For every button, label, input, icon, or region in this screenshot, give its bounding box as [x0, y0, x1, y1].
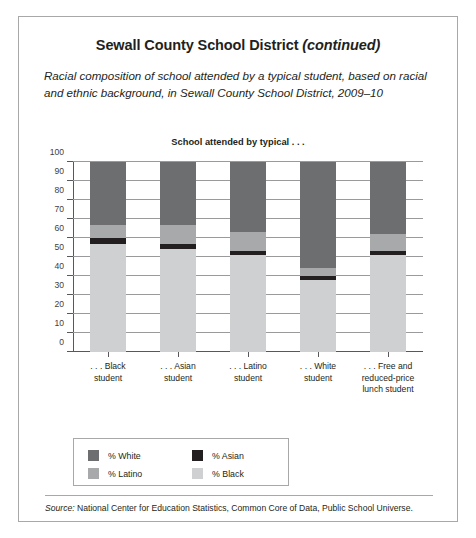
figure-card: Sewall County School District (continued… — [18, 16, 458, 522]
legend-item[interactable]: % Asian — [192, 450, 244, 461]
bar-segment-asian[interactable] — [90, 238, 126, 244]
legend-swatch-icon — [192, 468, 203, 479]
legend-swatch-icon — [192, 450, 203, 461]
x-axis-label-line: student — [160, 373, 195, 385]
stacked-bar[interactable] — [300, 162, 336, 352]
x-axis-label: . . . Whitestudent — [300, 361, 336, 384]
page-title: Sewall County School District (continued… — [19, 37, 457, 53]
source-divider — [45, 495, 433, 496]
bar-segment-latino[interactable] — [300, 268, 336, 276]
x-axis-label-line: student — [229, 373, 267, 385]
legend-label: % Asian — [212, 451, 244, 461]
bar-segment-black[interactable] — [230, 255, 266, 352]
bar-group — [90, 162, 126, 352]
y-axis-label: 10 — [54, 318, 64, 328]
bar-series-container — [73, 162, 423, 352]
bar-segment-white[interactable] — [230, 162, 266, 232]
x-axis-tick — [248, 352, 249, 357]
legend-item[interactable]: % Black — [192, 468, 244, 479]
chart-legend: % White% Asian% Latino% Black — [73, 438, 289, 486]
source-text: National Center for Education Statistics… — [75, 503, 413, 513]
stacked-bar-chart: 0102030405060708090100 . . . Blackstuden… — [35, 157, 445, 372]
x-axis-tick — [318, 352, 319, 357]
bar-segment-latino[interactable] — [160, 225, 196, 244]
legend-swatch-icon — [88, 450, 99, 461]
x-axis-label: . . . Blackstudent — [90, 361, 125, 384]
y-axis-label: 40 — [54, 261, 64, 271]
legend-item[interactable]: % White — [88, 450, 141, 461]
y-axis-label: 50 — [54, 242, 64, 252]
y-axis-label: 60 — [54, 223, 64, 233]
bar-segment-black[interactable] — [90, 244, 126, 352]
plot-heading: School attended by typical . . . — [19, 137, 457, 147]
bar-segment-white[interactable] — [370, 162, 406, 234]
x-axis-label-line: student — [300, 373, 336, 385]
x-axis-label-line: . . . Black — [90, 361, 125, 373]
bar-group — [370, 162, 406, 352]
x-axis-label-line: . . . Asian — [160, 361, 195, 373]
bar-segment-black[interactable] — [160, 249, 196, 352]
source-label: Source: — [45, 503, 75, 513]
title-main: Sewall County School District — [96, 37, 302, 53]
y-axis-label: 80 — [54, 185, 64, 195]
x-axis-label: . . . Latinostudent — [229, 361, 267, 384]
x-axis-label: . . . Free andreduced-pricelunch student — [362, 361, 415, 396]
legend-label: % Black — [212, 469, 244, 479]
page-root: Sewall County School District (continued… — [0, 0, 476, 538]
y-axis-label: 90 — [54, 166, 64, 176]
x-axis-tick — [388, 352, 389, 357]
x-axis-label-line: . . . Latino — [229, 361, 267, 373]
bar-segment-white[interactable] — [90, 162, 126, 225]
x-axis-label-line: . . . White — [300, 361, 336, 373]
x-axis-tick — [178, 352, 179, 357]
stacked-bar[interactable] — [90, 162, 126, 352]
bar-segment-white[interactable] — [300, 162, 336, 268]
y-axis-label: 30 — [54, 280, 64, 290]
y-axis-label: 100 — [50, 147, 64, 157]
source-note: Source: National Center for Education St… — [45, 503, 437, 513]
legend-item[interactable]: % Latino — [88, 468, 142, 479]
bar-segment-latino[interactable] — [90, 225, 126, 238]
bar-group — [230, 162, 266, 352]
legend-swatch-icon — [88, 468, 99, 479]
bar-group — [160, 162, 196, 352]
plot-area: 0102030405060708090100 . . . Blackstuden… — [73, 162, 423, 352]
bar-segment-asian[interactable] — [230, 251, 266, 255]
x-axis-label: . . . Asianstudent — [160, 361, 195, 384]
y-axis-label: 20 — [54, 299, 64, 309]
stacked-bar[interactable] — [230, 162, 266, 352]
stacked-bar[interactable] — [160, 162, 196, 352]
bar-segment-black[interactable] — [370, 255, 406, 352]
x-axis-label-line: reduced-price — [362, 373, 415, 385]
bar-segment-latino[interactable] — [230, 232, 266, 251]
x-axis-tick — [108, 352, 109, 357]
figure-subtitle: Racial composition of school attended by… — [44, 67, 436, 101]
bar-segment-latino[interactable] — [370, 234, 406, 251]
y-axis-label: 70 — [54, 204, 64, 214]
y-axis-label: 0 — [59, 337, 64, 347]
x-axis-label-line: lunch student — [362, 384, 415, 396]
x-axis-label-line: . . . Free and — [362, 361, 415, 373]
legend-label: % Latino — [108, 469, 142, 479]
title-emphasis: (continued) — [302, 37, 380, 53]
bar-segment-white[interactable] — [160, 162, 196, 225]
bar-segment-asian[interactable] — [300, 276, 336, 280]
stacked-bar[interactable] — [370, 162, 406, 352]
x-axis-label-line: student — [90, 373, 125, 385]
bar-segment-asian[interactable] — [160, 244, 196, 250]
bar-segment-black[interactable] — [300, 280, 336, 352]
legend-label: % White — [108, 451, 141, 461]
bar-group — [300, 162, 336, 352]
bar-segment-asian[interactable] — [370, 251, 406, 255]
